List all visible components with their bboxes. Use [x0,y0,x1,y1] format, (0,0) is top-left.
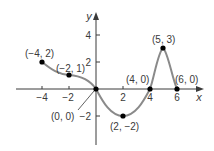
x-tick-label: −4 [36,92,48,103]
data-point [147,86,152,91]
point-label: (0, 0) [51,111,74,122]
data-point [174,86,179,91]
point-label: (−2, 1) [56,63,85,74]
origin-leader-line [78,91,94,110]
point-label: (5, 3) [152,34,175,45]
data-point [120,113,125,118]
x-tick-label: −2 [62,92,74,103]
x-tick-label: 2 [120,92,126,103]
y-tick-label: −2 [80,111,92,122]
point-label: (6, 0) [175,74,198,85]
y-axis-arrow-icon [93,12,99,20]
x-axis-label: x [195,91,202,103]
point-label: (−4, 2) [25,48,54,59]
y-axis-label: y [85,10,93,22]
point-label: (4, 0) [126,74,149,85]
point-label: (2, −2) [110,121,139,132]
data-point [160,45,165,50]
data-point [93,86,98,91]
y-tick-label: 4 [85,30,91,41]
point-labels: (−4, 2) (−2, 1) (0, 0) (2, −2) (4, 0) (5… [25,34,198,132]
function-curve [42,48,177,116]
data-point [39,59,44,64]
function-graph: −4 −2 2 4 6 4 2 −2 x y (−4, [0,0,214,151]
y-tick-label: 2 [85,57,91,68]
x-tick-label: 6 [174,92,180,103]
